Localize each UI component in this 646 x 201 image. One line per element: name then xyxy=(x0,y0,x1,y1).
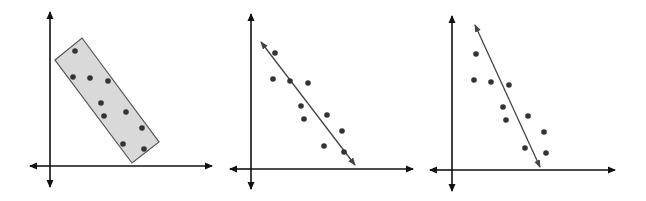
data-point xyxy=(87,75,93,81)
figure xyxy=(0,0,646,201)
data-point xyxy=(298,103,304,109)
data-point xyxy=(72,48,78,54)
scatter-diagrams xyxy=(0,0,646,201)
data-point xyxy=(506,82,512,88)
data-point xyxy=(272,50,278,56)
data-point xyxy=(287,78,293,84)
panel-good-fit-line xyxy=(230,14,413,189)
data-point xyxy=(522,145,528,151)
data-point xyxy=(473,51,479,57)
trend-line-arrow-icon xyxy=(261,42,308,104)
data-point xyxy=(101,113,107,119)
data-point xyxy=(98,100,104,106)
data-point xyxy=(270,76,276,82)
data-point xyxy=(305,80,311,86)
data-point xyxy=(471,77,477,83)
data-point xyxy=(105,78,111,84)
trend-line-arrow-icon xyxy=(308,104,355,166)
data-point xyxy=(341,149,347,155)
data-point xyxy=(321,143,327,149)
trend-line-arrow-icon xyxy=(508,96,541,167)
data-point xyxy=(541,129,547,135)
data-point xyxy=(488,79,494,85)
trend-line-arrow-icon xyxy=(475,25,508,96)
panel-poor-fit-line xyxy=(430,16,615,191)
enclosing-rectangle xyxy=(55,38,159,163)
data-point xyxy=(301,116,307,122)
data-point xyxy=(324,112,330,118)
data-point xyxy=(139,125,145,131)
data-point xyxy=(503,117,509,123)
data-point xyxy=(120,141,126,147)
data-point xyxy=(339,128,345,134)
data-point xyxy=(543,150,549,156)
panel-enclosed-band xyxy=(30,12,212,187)
data-point xyxy=(500,104,506,110)
data-point xyxy=(70,74,76,80)
data-point xyxy=(123,109,129,115)
data-point xyxy=(525,113,531,119)
data-point xyxy=(141,146,147,152)
